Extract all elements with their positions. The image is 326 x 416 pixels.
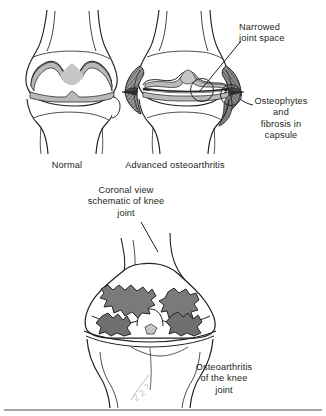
normal-knee-drawing [26,10,120,154]
figure-root: Normal Advanced osteoarthritis Narrowed … [0,0,326,416]
caption-normal: Normal [32,160,102,171]
coronal-tibia-ridge-line [150,348,151,390]
coronal-erosion-patch-lower-right [166,312,202,336]
leader-line-coronal [141,222,158,252]
normal-fibula-head [112,97,120,118]
artist-signature [131,375,149,401]
coronal-tibial-spine-shading [131,347,188,356]
caption-osteoarthritis-of-knee-joint: Osteoarthritis of the knee joint [178,362,270,396]
oa-tibia-inner-line-left [152,128,153,154]
caption-osteophytes-fibrosis: Osteophytes and fibrosis in capsule [238,96,324,142]
normal-tibia-inner-line-left [40,128,41,154]
caption-narrowed-joint-space: Narrowed joint space [239,22,323,45]
normal-tibia-inner-line-right [102,128,103,154]
oa-tibia-inner-line-right [214,128,215,154]
oa-tibia-contour-line [147,112,222,120]
caption-advanced-osteoarthritis: Advanced osteoarthritis [112,160,238,171]
normal-tibia-contour-line [33,112,109,120]
caption-coronal-view: Coronal view schematic of knee joint [62,185,190,219]
oa-knee-drawing [122,10,253,154]
